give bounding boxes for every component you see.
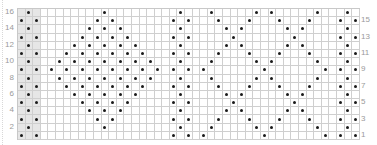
chart-cell [18,91,26,99]
chart-cell [155,107,163,115]
chart-cell [94,107,102,115]
chart-cell [140,25,148,33]
chart-cell [26,83,34,91]
chart-cell-dot [71,58,79,66]
chart-cell-dot [102,25,110,33]
chart-cell [253,99,261,107]
chart-cell [56,91,64,99]
chart-cell [314,34,322,42]
chart-cell-dot [56,75,64,83]
chart-cell [79,75,87,83]
chart-cell [193,34,201,42]
chart-cell [162,91,170,99]
chart-cell [193,9,201,17]
chart-cell-dot [94,83,102,91]
chart-cell [352,124,360,132]
chart-cell [41,107,49,115]
chart-cell [284,99,292,107]
row-label-left: 16 [4,8,14,16]
chart-cell-dot [26,75,34,83]
chart-cell [155,75,163,83]
chart-cell [147,42,155,50]
chart-cell [64,58,72,66]
chart-cell [26,17,34,25]
row-label-right: 11 [361,49,369,57]
chart-cell [48,107,56,115]
chart-cell [71,115,79,123]
chart-cell [124,25,132,33]
chart-cell [147,107,155,115]
chart-cell-dot [94,34,102,42]
chart-cell-dot [352,66,360,74]
chart-cell [284,58,292,66]
chart-cell [140,34,148,42]
chart-cell [208,91,216,99]
chart-cell [231,91,239,99]
chart-cell-dot [291,34,299,42]
chart-cell [94,91,102,99]
chart-cell [117,50,125,58]
chart-cell [64,75,72,83]
chart-cell [269,17,277,25]
chart-cell-dot [170,83,178,91]
chart-cell-dot [140,50,148,58]
chart-cell-dot [345,58,353,66]
chart-cell [48,75,56,83]
chart-cell [48,17,56,25]
chart-cell [71,50,79,58]
chart-cell [322,50,330,58]
chart-cell [26,115,34,123]
chart-cell [56,99,64,107]
chart-cell [102,34,110,42]
chart-cell [231,42,239,50]
chart-cell [147,66,155,74]
chart-cell [269,83,277,91]
chart-cell [170,25,178,33]
chart-cell-dot [307,50,315,58]
chart-cell [170,124,178,132]
chart-cell [307,91,315,99]
chart-cell [261,99,269,107]
chart-cell [200,9,208,17]
chart-cell-dot [26,58,34,66]
chart-cell [193,66,201,74]
chart-cell [322,34,330,42]
chart-cell [215,99,223,107]
chart-cell [102,83,110,91]
chart-cell-dot [185,50,193,58]
chart-cell [223,132,231,140]
chart-cell [193,115,201,123]
chart-cell-dot [177,9,185,17]
chart-cell [253,132,261,140]
chart-cell [79,115,87,123]
chart-cell [269,25,277,33]
chart-cell [177,34,185,42]
chart-cell [79,25,87,33]
chart-cell [94,75,102,83]
chart-cell-dot [109,99,117,107]
chart-cell [215,66,223,74]
chart-cell [177,132,185,140]
chart-cell [33,75,41,83]
chart-cell [64,42,72,50]
chart-cell [140,42,148,50]
chart-cell-dot [223,25,231,33]
chart-cell [140,99,148,107]
chart-cell-dot [352,83,360,91]
chart-cell-dot [71,91,79,99]
chart-cell-dot [86,107,94,115]
chart-cell [291,17,299,25]
chart-cell [291,115,299,123]
chart-cell-dot [269,124,277,132]
chart-cell [79,58,87,66]
chart-cell-dot [102,124,110,132]
chart-cell [246,107,254,115]
chart-cell [238,132,246,140]
chart-cell-dot [352,132,360,140]
chart-cell [223,83,231,91]
chart-cell-dot [299,91,307,99]
chart-cell [162,50,170,58]
chart-cell-dot [33,99,41,107]
chart-cell [155,58,163,66]
chart-cell [269,99,277,107]
